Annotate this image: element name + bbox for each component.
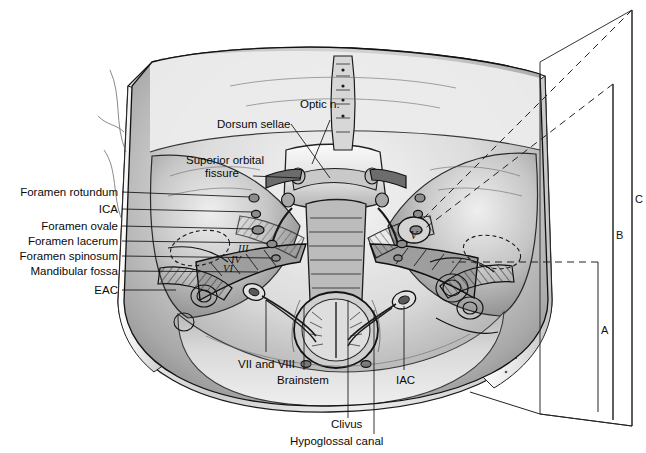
label-brainstem: Brainstem xyxy=(277,374,329,387)
label-optic-nerve: Optic n. xyxy=(300,98,340,111)
label-cranial-nerve-iii: III xyxy=(238,243,249,254)
label-foramen-ovale: Foramen ovale xyxy=(0,220,118,233)
label-ica: ICA xyxy=(0,203,118,216)
label-dorsum-sellae: Dorsum sellae xyxy=(217,118,291,131)
label-mandibular-fossa: Mandibular fossa xyxy=(0,265,118,278)
label-cranial-nerve-vi: VI xyxy=(223,263,233,274)
anatomical-figure: Foramen rotundum ICA Foramen ovale Foram… xyxy=(0,0,646,453)
bracket-label-b: B xyxy=(616,229,623,241)
label-vii-and-viii: VII and VIII xyxy=(238,358,295,371)
label-superior-orbital-fissure-line2: fissure xyxy=(205,167,239,180)
label-foramen-rotundum: Foramen rotundum xyxy=(0,186,118,199)
label-eac: EAC xyxy=(0,284,118,297)
label-superior-orbital-fissure-line1: Superior orbital xyxy=(186,154,264,167)
bracket-label-a: A xyxy=(601,324,608,336)
label-cranial-nerve-v: V xyxy=(410,228,417,243)
label-hypoglossal-canal: Hypoglossal canal xyxy=(290,435,383,448)
cranial-floor xyxy=(118,40,558,420)
label-foramen-lacerum: Foramen lacerum xyxy=(0,235,118,248)
label-iac: IAC xyxy=(396,374,415,387)
label-clivus: Clivus xyxy=(331,418,362,431)
label-foramen-spinosum: Foramen spinosum xyxy=(0,250,118,263)
bracket-label-c: C xyxy=(635,193,643,205)
